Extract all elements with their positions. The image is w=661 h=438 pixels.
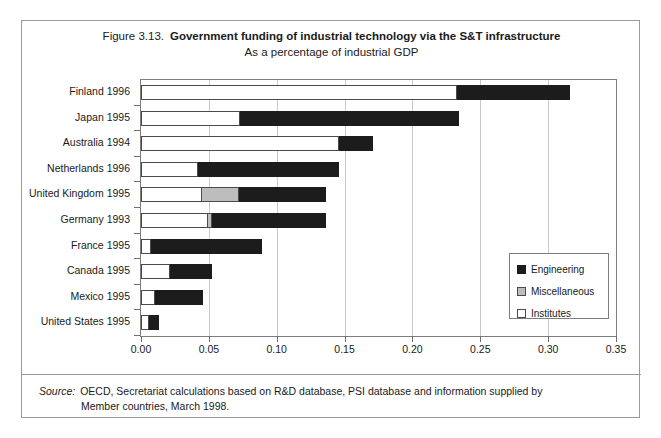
y-axis-category-label: Germany 1993 <box>61 207 130 233</box>
bar-row <box>141 106 616 132</box>
x-axis-tick <box>141 336 142 342</box>
legend-item: Miscellaneous <box>517 283 608 299</box>
x-axis-tick <box>548 336 549 342</box>
page-title: Government funding of industrial technol… <box>170 30 560 42</box>
bar-segment-institutes <box>141 162 198 177</box>
bar-segment-institutes <box>141 187 202 202</box>
bar-segment-engineering <box>155 290 204 305</box>
legend-label: Miscellaneous <box>531 286 594 297</box>
bar-segment-institutes <box>141 239 151 254</box>
x-axis-ticks <box>140 336 617 342</box>
figure-frame: Figure 3.13.Government funding of indust… <box>21 20 640 418</box>
legend-swatch-icon <box>517 309 526 318</box>
bar-row <box>141 157 616 183</box>
x-axis-tick-label: 0.30 <box>538 343 558 355</box>
bar-row <box>141 80 616 106</box>
source-note: Source:OECD, Secretariat calculations ba… <box>39 384 631 414</box>
bar-segment-institutes <box>141 264 170 279</box>
bar-segment-institutes <box>141 136 339 151</box>
legend-item: Engineering <box>517 261 608 277</box>
source-line-2: Member countries, March 1998. <box>81 399 631 414</box>
stacked-bar <box>141 290 203 305</box>
x-axis-tick <box>209 336 210 342</box>
stacked-bar <box>141 264 212 279</box>
x-axis-tick-label: 0.15 <box>334 343 354 355</box>
bar-segment-institutes <box>141 290 155 305</box>
bar-segment-institutes <box>141 315 149 330</box>
bar-segment-engineering <box>149 315 159 330</box>
y-axis-category-label: Japan 1995 <box>75 105 130 131</box>
bar-row <box>141 208 616 234</box>
bar-row <box>141 131 616 157</box>
x-axis-tick-label: 0.05 <box>199 343 219 355</box>
bar-segment-institutes <box>141 111 240 126</box>
chart-legend: EngineeringMiscellaneousInstitutes <box>509 253 609 319</box>
figure-heading: Figure 3.13.Government funding of indust… <box>22 29 641 44</box>
x-axis-tick-label: 0.25 <box>470 343 490 355</box>
bar-segment-engineering <box>170 264 212 279</box>
figure-subtitle: As a percentage of industrial GDP <box>22 44 641 60</box>
bar-segment-institutes <box>141 213 208 228</box>
y-axis-category-label: United Kingdom 1995 <box>29 181 130 207</box>
stacked-bar <box>141 239 262 254</box>
y-axis-category-label: Finland 1996 <box>69 79 130 105</box>
stacked-bar <box>141 315 159 330</box>
stacked-bar <box>141 136 373 151</box>
stacked-bar <box>141 213 326 228</box>
legend-swatch-icon <box>517 265 526 274</box>
x-axis-tick <box>412 336 413 342</box>
figure-title-block: Figure 3.13.Government funding of indust… <box>22 29 641 60</box>
legend-swatch-icon <box>517 287 526 296</box>
bar-segment-engineering <box>457 85 570 100</box>
bar-segment-engineering <box>212 213 326 228</box>
bar-segment-engineering <box>240 111 459 126</box>
bar-segment-engineering <box>339 136 373 151</box>
x-axis-tick <box>480 336 481 342</box>
source-text: OECD, Secretariat calculations based on … <box>80 385 542 397</box>
x-axis-tick-label: 0.00 <box>131 343 151 355</box>
stacked-bar <box>141 85 570 100</box>
stacked-bar <box>141 162 339 177</box>
y-axis-category-label: Canada 1995 <box>67 258 130 284</box>
source-divider <box>22 374 641 375</box>
source-line-1: Source:OECD, Secretariat calculations ba… <box>39 384 631 399</box>
y-axis-category-label: Netherlands 1996 <box>47 156 130 182</box>
stacked-bar <box>141 111 459 126</box>
bar-segment-engineering <box>198 162 339 177</box>
y-axis-category-label: Australia 1994 <box>63 130 130 156</box>
x-axis-tick <box>277 336 278 342</box>
figure-number: Figure 3.13. <box>103 30 164 42</box>
bar-segment-engineering <box>239 187 326 202</box>
y-axis-category-label: Mexico 1995 <box>70 284 130 310</box>
x-axis-tick <box>345 336 346 342</box>
y-axis-labels: Finland 1996Japan 1995Australia 1994Neth… <box>22 79 136 335</box>
bar-segment-institutes <box>141 85 457 100</box>
y-axis-category-label: France 1995 <box>71 233 130 259</box>
x-axis-tick <box>616 336 617 342</box>
x-axis-tick-label: 0.10 <box>266 343 286 355</box>
legend-item: Institutes <box>517 305 608 321</box>
x-axis-tick-label: 0.35 <box>606 343 626 355</box>
y-axis-category-label: United States 1995 <box>41 309 130 335</box>
bar-segment-engineering <box>151 239 262 254</box>
legend-label: Engineering <box>531 264 584 275</box>
x-axis-tick-label: 0.20 <box>402 343 422 355</box>
x-axis-labels: 0.000.050.100.150.200.250.300.35 <box>140 343 617 359</box>
source-label: Source: <box>39 385 75 397</box>
legend-label: Institutes <box>531 308 571 319</box>
stacked-bar <box>141 187 326 202</box>
bar-segment-miscellaneous <box>202 187 239 202</box>
bar-row <box>141 182 616 208</box>
